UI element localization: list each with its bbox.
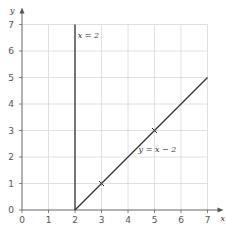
y-tick-label: 4	[8, 99, 14, 109]
y-tick-label: 1	[8, 179, 14, 189]
tick-labels: 0123456701234567	[8, 20, 210, 226]
annotations: x = 2y = x − 2	[78, 31, 177, 154]
y-axis-arrow-icon	[20, 8, 25, 14]
y-tick-label: 5	[8, 73, 14, 83]
grid	[22, 25, 208, 211]
y-axis-label: y	[9, 6, 15, 15]
x-axis-arrow-icon	[218, 208, 224, 213]
x-tick-label: 2	[72, 215, 78, 225]
y-tick-label: 2	[8, 152, 14, 162]
y-tick-label: 0	[8, 205, 14, 215]
x-tick-label: 7	[205, 215, 211, 225]
x-tick-label: 4	[125, 215, 131, 225]
x-tick-label: 0	[19, 215, 25, 225]
y-tick-label: 7	[8, 20, 14, 30]
series	[75, 25, 208, 211]
y-tick-label: 6	[8, 46, 14, 56]
x-tick-label: 3	[99, 215, 105, 225]
axes: xy	[9, 6, 226, 224]
chart: xy 0123456701234567 x = 2y = x − 2	[0, 0, 226, 228]
annotation-label: y = x − 2	[138, 145, 177, 154]
x-tick-label: 5	[152, 215, 158, 225]
x-axis-label: x	[221, 214, 226, 223]
annotation-label: x = 2	[78, 31, 99, 40]
x-tick-label: 6	[178, 215, 184, 225]
y-tick-label: 3	[8, 126, 14, 136]
x-tick-label: 1	[46, 215, 52, 225]
